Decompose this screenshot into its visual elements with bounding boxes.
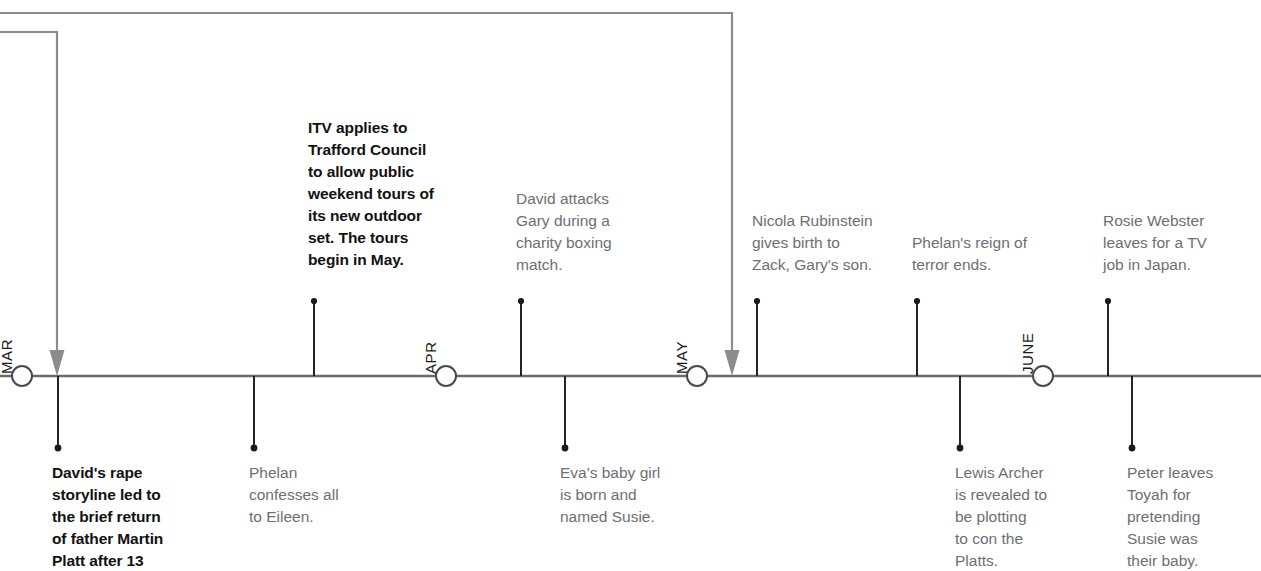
dot-peter-toyah (1129, 445, 1136, 452)
month-marker-may[interactable] (687, 366, 707, 386)
month-label-june: JUNE (1019, 332, 1036, 374)
event-label-itv-tours: ITV applies to Trafford Council to allow… (308, 117, 468, 271)
connector-arrowheads (50, 350, 740, 376)
dot-lewis-archer (957, 445, 964, 452)
event-label-phelan-reign: Phelan's reign of terror ends. (912, 232, 1062, 276)
dot-phelan-reign (914, 298, 920, 304)
month-marker-mar[interactable] (12, 366, 32, 386)
event-label-david-rape-storyline: David's rape storyline led to the brief … (52, 462, 227, 571)
month-label-apr: APR (422, 341, 439, 374)
event-dots-above (311, 298, 1111, 304)
event-label-phelan-confesses: Phelan confesses all to Eileen. (249, 462, 399, 528)
month-marker-june[interactable] (1033, 366, 1053, 386)
connector-upper-arrowhead (725, 350, 740, 376)
event-label-david-attacks: David attacks Gary during a charity boxi… (516, 188, 656, 276)
dot-phelan-confesses (251, 445, 258, 452)
connector-lower-arrowhead (50, 350, 65, 376)
dot-rosie-japan (1105, 298, 1111, 304)
dot-david-attacks (518, 298, 524, 304)
event-label-lewis-archer: Lewis Archer is revealed to be plotting … (955, 462, 1095, 571)
month-label-may: MAY (673, 341, 690, 374)
event-stems-below (58, 376, 1132, 448)
event-label-rosie-japan: Rosie Webster leaves for a TV job in Jap… (1103, 210, 1253, 276)
event-label-eva-baby: Eva's baby girl is born and named Susie. (560, 462, 710, 528)
dot-itv-tours (311, 298, 317, 304)
event-label-peter-toyah: Peter leaves Toyah for pretending Susie … (1127, 462, 1257, 571)
event-label-nicola-birth: Nicola Rubinstein gives birth to Zack, G… (752, 210, 912, 276)
month-label-mar: MAR (0, 339, 15, 374)
dot-david-rape-storyline (55, 445, 62, 452)
month-marker-apr[interactable] (436, 366, 456, 386)
event-dots-below (55, 445, 1136, 452)
dot-nicola-birth (754, 298, 760, 304)
connector-lower-path (0, 32, 57, 352)
dot-eva-baby (562, 445, 569, 452)
timeline-canvas: MAR APR MAY JUNE ITV applies to Trafford… (0, 0, 1261, 571)
